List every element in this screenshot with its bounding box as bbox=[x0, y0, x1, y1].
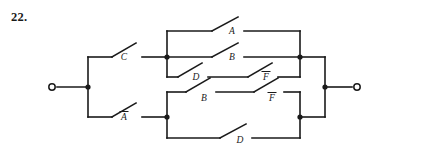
circuit-diagram-page: 22. bbox=[0, 0, 428, 155]
switch-label-fbar-lower: F bbox=[268, 93, 275, 103]
switch-label-fbar-upper: F bbox=[262, 72, 269, 82]
junction-lower-input bbox=[164, 114, 169, 119]
switch-label-c: C bbox=[121, 52, 128, 62]
switch-label-a: A bbox=[228, 26, 235, 36]
switching-circuit-figure: C A B D F A B F D bbox=[0, 0, 428, 155]
switch-label-abar: A bbox=[120, 112, 127, 122]
circuit-wires bbox=[57, 17, 352, 138]
junction-left-split bbox=[85, 84, 90, 89]
switch-label-d-lower: D bbox=[236, 135, 244, 145]
junction-upper-input bbox=[164, 54, 169, 59]
switch-label-b-upper: B bbox=[229, 52, 235, 62]
right-terminal-node bbox=[354, 84, 360, 90]
junction-lower-output bbox=[297, 114, 302, 119]
circuit-junction-dots bbox=[85, 54, 327, 119]
left-terminal-node bbox=[49, 84, 55, 90]
circuit-terminals bbox=[49, 84, 360, 90]
switch-label-b-lower: B bbox=[201, 93, 207, 103]
switch-label-d-upper: D bbox=[192, 72, 200, 82]
junction-right-collect bbox=[322, 84, 327, 89]
junction-upper-output bbox=[297, 54, 302, 59]
